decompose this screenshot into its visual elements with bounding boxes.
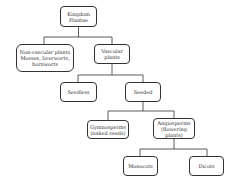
node-label: Angiosperms (flowering plants) bbox=[157, 120, 190, 138]
node-label: Vascular plants bbox=[101, 48, 123, 60]
node-angiosperms: Angiosperms (flowering plants) bbox=[153, 118, 195, 139]
node-label: Seeded bbox=[134, 89, 153, 95]
node-gymnosperms: Gymnosperms (naked seeds) bbox=[87, 120, 129, 139]
node-label: Monocots bbox=[128, 163, 153, 169]
node-vascular-plants: Vascular plants bbox=[94, 44, 130, 64]
node-dicots: Dicots bbox=[189, 156, 224, 176]
node-label: Gymnosperms (naked seeds) bbox=[90, 124, 126, 136]
node-monocots: Monocots bbox=[123, 156, 158, 176]
node-non-vascular-plants: Non-vascular plants Mosses, liverworts, … bbox=[16, 44, 74, 72]
node-seeded: Seeded bbox=[125, 82, 161, 102]
node-label: Kingdom Plantae bbox=[67, 11, 90, 23]
node-label: Seedless bbox=[67, 89, 89, 95]
node-kingdom-plantae: Kingdom Plantae bbox=[60, 6, 97, 27]
node-label: Dicots bbox=[199, 163, 215, 169]
node-label: Non-vascular plants Mosses, liverworts, … bbox=[20, 49, 71, 67]
node-seedless: Seedless bbox=[60, 82, 97, 102]
